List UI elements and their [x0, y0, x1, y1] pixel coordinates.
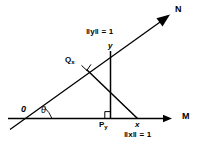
- segment-x-to-qx: [87, 70, 138, 119]
- angle-theta-label: θ: [41, 106, 46, 115]
- axis-label-m: M: [182, 112, 190, 121]
- n-axis-arrowhead: [157, 15, 171, 27]
- point-x-label: x: [135, 121, 139, 129]
- norm-x-label: ‖x‖ = 1: [124, 131, 151, 139]
- point-y-label: y: [108, 42, 112, 50]
- projection-py-label: Py: [99, 121, 108, 129]
- geometry-figure: N M 0 θ ‖y‖ = 1 y Qx Py x ‖x‖ = 1: [0, 0, 208, 146]
- norm-y-label: ‖y‖ = 1: [86, 28, 113, 36]
- m-axis-arrowhead: [163, 115, 172, 122]
- projection-qx-label: Qx: [65, 56, 75, 64]
- projection-qx-subscript: x: [71, 59, 74, 65]
- origin-label: 0: [21, 105, 26, 114]
- axis-label-n: N: [175, 5, 182, 14]
- projection-py-subscript: y: [104, 124, 107, 130]
- right-angle-mark-qx: [82, 64, 92, 70]
